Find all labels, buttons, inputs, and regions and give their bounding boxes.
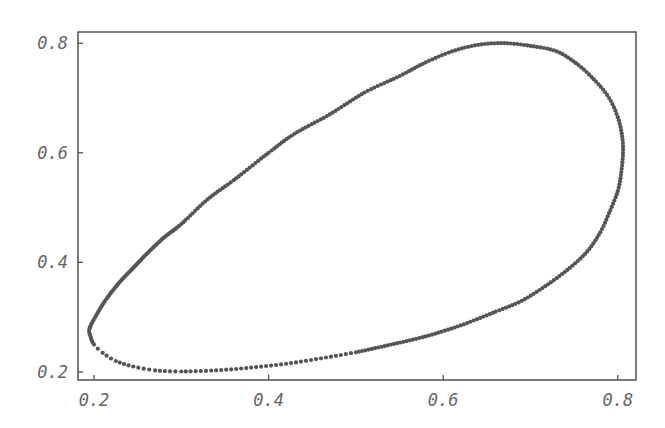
data-point bbox=[334, 354, 338, 358]
data-point bbox=[147, 368, 151, 372]
data-point bbox=[229, 367, 233, 371]
data-points bbox=[87, 41, 625, 374]
data-point bbox=[279, 362, 283, 366]
data-point bbox=[289, 361, 293, 365]
data-point bbox=[294, 360, 298, 364]
data-point bbox=[189, 369, 193, 373]
data-point bbox=[339, 353, 343, 357]
data-point bbox=[329, 355, 333, 359]
data-point bbox=[199, 369, 203, 373]
data-point bbox=[344, 352, 348, 356]
data-point bbox=[274, 363, 278, 367]
data-point bbox=[142, 367, 146, 371]
data-point bbox=[87, 329, 91, 333]
data-point bbox=[319, 356, 323, 360]
data-point bbox=[259, 365, 263, 369]
data-point bbox=[163, 369, 167, 373]
data-point bbox=[299, 360, 303, 364]
data-point bbox=[109, 356, 113, 360]
data-point bbox=[101, 351, 105, 355]
data-point bbox=[214, 368, 218, 372]
data-point bbox=[122, 362, 126, 366]
data-point bbox=[118, 361, 122, 365]
data-point bbox=[105, 354, 109, 358]
data-point bbox=[179, 369, 183, 373]
data-point bbox=[354, 350, 358, 354]
data-point bbox=[264, 364, 268, 368]
scatter-chart: 0.20.40.60.8 0.20.40.60.8 bbox=[0, 0, 665, 428]
y-tick-label: 0.4 bbox=[37, 252, 68, 272]
data-point bbox=[158, 369, 162, 373]
data-point bbox=[249, 366, 253, 370]
data-point bbox=[224, 368, 228, 372]
data-point bbox=[204, 369, 208, 373]
data-point bbox=[184, 369, 188, 373]
data-point bbox=[244, 366, 248, 370]
x-tick-label: 0.2 bbox=[79, 390, 110, 410]
data-point bbox=[349, 351, 353, 355]
data-point bbox=[324, 355, 328, 359]
y-tick-label: 0.2 bbox=[37, 362, 68, 382]
data-point bbox=[114, 359, 118, 363]
x-tick-label: 0.6 bbox=[428, 390, 459, 410]
data-point bbox=[254, 365, 258, 369]
y-tick-label: 0.6 bbox=[37, 143, 68, 163]
data-point bbox=[136, 366, 140, 370]
x-tick-label: 0.4 bbox=[253, 390, 284, 410]
plot-frame bbox=[78, 32, 636, 380]
data-point bbox=[497, 308, 501, 312]
data-point bbox=[284, 362, 288, 366]
data-point bbox=[219, 368, 223, 372]
data-point bbox=[168, 369, 172, 373]
y-axis: 0.20.40.60.8 bbox=[37, 33, 83, 382]
data-point bbox=[96, 347, 100, 351]
data-point bbox=[126, 363, 130, 367]
data-point bbox=[239, 366, 243, 370]
data-point bbox=[194, 369, 198, 373]
data-point bbox=[153, 368, 157, 372]
data-point bbox=[269, 364, 273, 368]
x-tick-label: 0.8 bbox=[602, 390, 633, 410]
data-point bbox=[314, 357, 318, 361]
data-point bbox=[304, 359, 308, 363]
data-point bbox=[309, 358, 313, 362]
y-tick-label: 0.8 bbox=[37, 33, 68, 53]
data-point bbox=[131, 364, 135, 368]
data-point bbox=[209, 369, 213, 373]
data-point bbox=[173, 369, 177, 373]
data-point bbox=[234, 367, 238, 371]
